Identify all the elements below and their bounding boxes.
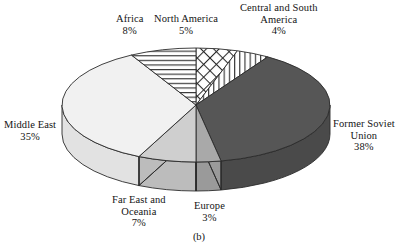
slice-label-north-america: North America5%: [154, 13, 218, 36]
slice-label-text: Union: [333, 130, 395, 142]
slice-label-central-and-south-america: Central and SouthAmerica4%: [240, 2, 318, 37]
slice-label-text: Europe: [194, 200, 225, 212]
slice-label-europe: Europe3%: [194, 200, 225, 223]
slice-value-text: 35%: [4, 131, 56, 143]
slice-label-text: North America: [154, 13, 218, 25]
slice-value-text: 3%: [194, 212, 225, 224]
slice-value-text: 5%: [154, 25, 218, 37]
pie-slice-side: [196, 161, 221, 191]
pie-top-faces: [62, 48, 330, 162]
slice-label-text: America: [240, 14, 318, 26]
slice-label-text: Central and South: [240, 2, 318, 14]
slice-label-far-east-and-oceania: Far East andOceania7%: [112, 194, 166, 229]
slice-value-text: 8%: [116, 25, 143, 37]
pie-chart-figure: North America5%Central and SouthAmerica4…: [0, 0, 398, 252]
slice-label-africa: Africa8%: [116, 13, 143, 36]
slice-label-text: Oceania: [112, 206, 166, 218]
slice-label-text: Far East and: [112, 194, 166, 206]
slice-label-text: Africa: [116, 13, 143, 25]
slice-value-text: 7%: [112, 217, 166, 229]
slice-label-text: Middle East: [4, 119, 56, 131]
slice-value-text: 38%: [333, 141, 395, 153]
figure-caption: (b): [0, 231, 398, 242]
slice-label-middle-east: Middle East35%: [4, 119, 56, 142]
slice-label-text: Former Soviet: [333, 118, 395, 130]
slice-value-text: 4%: [240, 25, 318, 37]
slice-label-former-soviet-union: Former SovietUnion38%: [333, 118, 395, 153]
